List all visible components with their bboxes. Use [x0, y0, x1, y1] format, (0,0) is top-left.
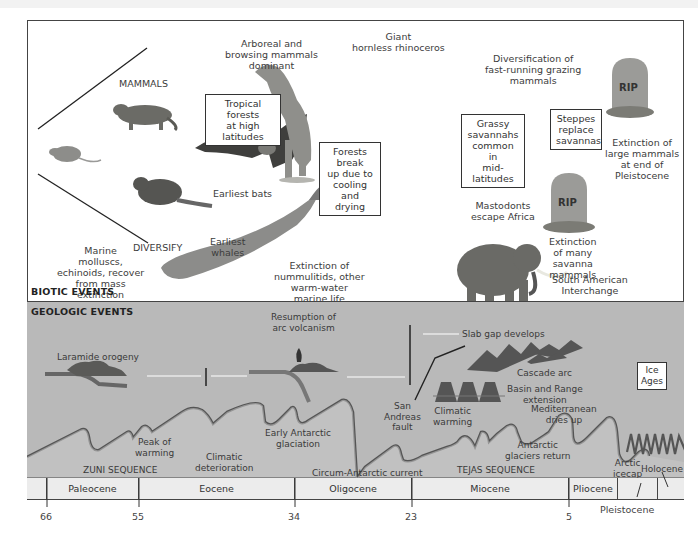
label-holocene: Holocene	[641, 464, 683, 475]
biotic-events-title: BIOTIC EVENTS	[31, 286, 114, 297]
tick-5: 5	[566, 511, 572, 522]
label-south-american-interchange: South American Interchange	[552, 274, 628, 296]
label-zuni-sequence: ZUNI SEQUENCE	[83, 465, 157, 476]
epoch-miocene: Miocene	[412, 478, 569, 499]
arc-volcanism-illustration	[249, 348, 339, 402]
box-grassy-savannahs: Grassy savannahs common in mid-latitudes	[461, 114, 525, 188]
label-tejas-sequence: TEJAS SEQUENCE	[457, 465, 535, 476]
label-antarctic-glaciers-return: Antarctic glaciers return	[505, 440, 570, 461]
tick-34: 34	[288, 511, 300, 522]
label-arctic-icecap: Arctic icecap	[613, 458, 642, 479]
label-early-antarctic-glaciation: Early Antarctic glaciation	[265, 428, 331, 449]
label-mammals: MAMMALS	[119, 78, 168, 89]
label-basin-and-range: Basin and Range extension	[507, 384, 583, 405]
tick-55: 55	[132, 511, 144, 522]
tick-66: 66	[40, 511, 52, 522]
biotic-events-panel: MAMMALS DIVERSIFY Arboreal and browsing …	[27, 20, 684, 301]
geologic-events-title: GEOLOGIC EVENTS	[31, 306, 133, 317]
label-laramide-orogeny: Laramide orogeny	[57, 352, 139, 363]
shrew-illustration	[49, 146, 101, 162]
geologic-events-panel: GEOLOGIC EVENTS Laramide orogeny Resumpt…	[27, 301, 684, 478]
label-peak-of-warming: Peak of warming	[135, 437, 174, 458]
epoch-paleocene: Paleocene	[47, 478, 139, 499]
basin-and-range-illustration	[433, 382, 505, 402]
laramide-orogeny-illustration	[45, 361, 127, 386]
top-strip	[0, 0, 698, 8]
epoch-cretaceous-end	[27, 478, 47, 499]
label-earliest-bats: Earliest bats	[213, 188, 272, 199]
box-ice-ages: Ice Ages	[637, 362, 667, 390]
epoch-holocene	[658, 478, 684, 499]
label-cascade-arc: Cascade arc	[517, 368, 572, 379]
label-arboreal-mammals: Arboreal and browsing mammals dominant	[225, 38, 318, 71]
label-mastodonts: Mastodonts escape Africa	[471, 200, 535, 222]
label-arc-volcanism: Resumption of arc volcanism	[271, 312, 336, 333]
label-grazing-mammals: Diversification of fast-running grazing …	[485, 53, 581, 86]
epoch-pleistocene	[618, 478, 658, 499]
label-slab-gap: Slab gap develops	[462, 329, 545, 340]
label-extinction-large-mammals: Extinction of large mammals at end of Pl…	[605, 137, 679, 181]
label-san-andreas-fault: San Andreas fault	[384, 401, 421, 433]
ice-age-oscillation	[627, 434, 684, 454]
rip-text-savanna: RIP	[558, 197, 577, 208]
label-earliest-whales: Earliest whales	[210, 236, 246, 258]
label-circum-antarctic-current: Circum-Antarctic current	[312, 468, 422, 479]
box-tropical-forests: Tropical forests at high latitudes	[205, 94, 281, 146]
label-pleistocene: Pleistocene	[600, 504, 654, 515]
label-climatic-deterioration: Climatic deterioration	[195, 452, 253, 473]
label-nummulitids-extinction: Extinction of nummulitids, other warm-wa…	[274, 260, 365, 304]
rodent-illustration	[133, 177, 212, 206]
label-hornless-rhinoceros: Giant hornless rhinoceros	[352, 31, 445, 53]
label-mediterranean-dries-up: Mediterranean dries up	[531, 404, 597, 425]
epoch-pliocene: Pliocene	[569, 478, 618, 499]
rip-text-pleistocene: RIP	[619, 82, 638, 93]
geologic-illustrations	[27, 302, 684, 479]
epoch-oligocene: Oligocene	[295, 478, 412, 499]
tick-23: 23	[405, 511, 417, 522]
mammals-divergence-line-lower	[38, 174, 148, 243]
box-steppes-replace: Steppes replace savannas	[550, 109, 602, 150]
epoch-timeline: Paleocene Eocene Oligocene Miocene Plioc…	[27, 478, 684, 500]
volcano-plume-icon	[296, 348, 301, 362]
epoch-eocene: Eocene	[139, 478, 295, 499]
early-carnivore-illustration	[113, 104, 176, 130]
label-climatic-warming: Climatic warming	[433, 406, 472, 427]
box-forests-break-up: Forests break up due to cooling and dryi…	[319, 142, 381, 216]
